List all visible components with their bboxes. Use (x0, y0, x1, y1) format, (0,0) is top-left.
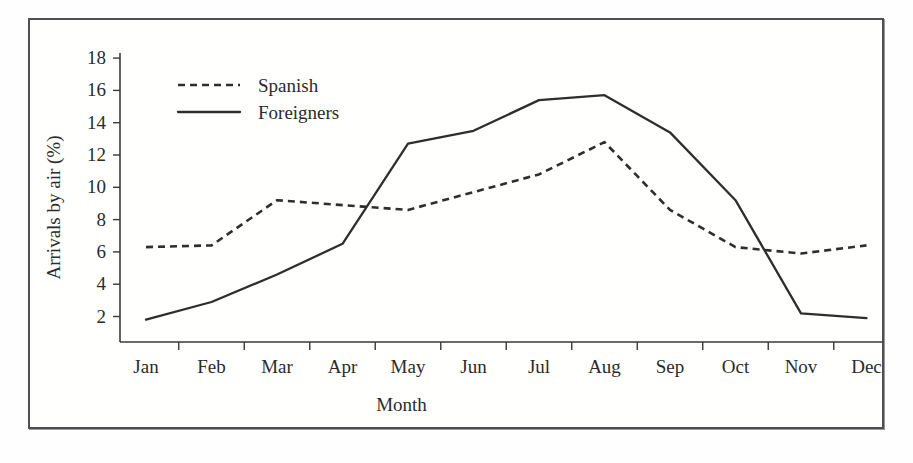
y-axis-tick-labels: 24681012141618 (87, 47, 107, 326)
x-tick-label: Jul (528, 356, 550, 377)
x-tick-label: Apr (328, 356, 358, 377)
x-tick-label: Nov (785, 356, 818, 377)
y-tick-label: 18 (87, 47, 106, 68)
y-tick-label: 12 (87, 144, 106, 165)
chart-legend: SpanishForeigners (178, 75, 339, 123)
x-tick-label: Mar (261, 356, 293, 377)
x-axis-tick-labels: JanFebMarAprMayJunJulAugSepOctNovDec (133, 356, 881, 377)
y-tick-label: 8 (97, 209, 107, 230)
series-line-foreigners (146, 95, 867, 320)
chart-series-group (146, 95, 867, 320)
x-tick-label: Jun (460, 356, 487, 377)
y-tick-label: 4 (97, 273, 107, 294)
y-tick-label: 6 (97, 241, 107, 262)
legend-label-spanish: Spanish (258, 75, 319, 96)
y-axis-ticks (113, 58, 120, 316)
x-axis-title: Month (376, 394, 427, 415)
chart-axes (113, 53, 883, 350)
x-tick-label: Dec (851, 356, 882, 377)
x-tick-label: May (391, 356, 426, 377)
x-axis-ticks (179, 342, 834, 350)
x-tick-label: Sep (656, 356, 685, 377)
y-tick-label: 16 (87, 79, 106, 100)
x-tick-label: Aug (588, 356, 621, 377)
x-tick-label: Jan (133, 356, 159, 377)
figure-root: 24681012141618 JanFebMarAprMayJunJulAugS… (0, 0, 913, 463)
y-axis-title: Arrivals by air (%) (43, 135, 65, 279)
series-line-spanish (146, 142, 867, 253)
x-tick-label: Oct (722, 356, 750, 377)
line-chart: 24681012141618 JanFebMarAprMayJunJulAugS… (0, 0, 913, 463)
x-tick-label: Feb (197, 356, 226, 377)
legend-label-foreigners: Foreigners (258, 102, 339, 123)
y-tick-label: 10 (87, 176, 106, 197)
y-tick-label: 14 (87, 112, 107, 133)
y-tick-label: 2 (97, 306, 107, 327)
